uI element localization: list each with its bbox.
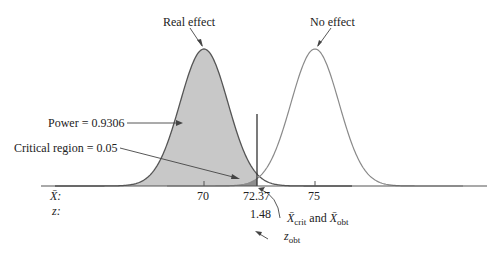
xcrit-xobt-label: X̄crit and X̄obt: [286, 211, 349, 227]
no-effect-label: No effect: [310, 15, 355, 29]
real-effect-label: Real effect: [163, 15, 216, 29]
z-axis-label: z:: [51, 204, 61, 218]
tick-label-7237: 72.37: [243, 189, 270, 203]
power-diagram: Real effect No effect Power = 0.9306 Cri…: [0, 0, 498, 255]
power-label: Power = 0.9306: [48, 116, 124, 130]
z-value-label: 1.48: [250, 207, 271, 221]
zobt-label: zobt: [283, 229, 301, 245]
tick-label-70: 70: [197, 189, 209, 203]
critical-region-label: Critical region = 0.05: [14, 141, 117, 155]
xbar-axis-label: X̄:: [49, 189, 61, 203]
tick-label-75: 75: [308, 189, 320, 203]
